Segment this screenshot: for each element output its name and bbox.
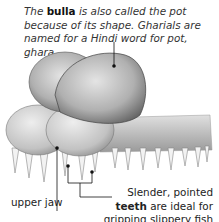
teeth-prefix: Slender, pointed — [127, 186, 213, 198]
teeth-annotation: Slender, pointed teeth are ideal for gri… — [103, 186, 213, 222]
upper-jaw-label: upper jaw — [11, 196, 63, 210]
teeth-term: teeth — [115, 200, 146, 212]
